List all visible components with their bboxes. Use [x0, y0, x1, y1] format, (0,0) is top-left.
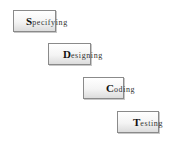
step-label-testing: Testing: [133, 117, 163, 129]
step-initial: D: [63, 48, 71, 60]
step-label-specifying: Specifying: [26, 16, 68, 28]
step-rest: pecifying: [32, 18, 68, 27]
step-initial: C: [106, 82, 114, 94]
step-rest: esigning: [71, 51, 103, 60]
step-rest: esting: [140, 119, 163, 128]
step-rest: oding: [114, 85, 135, 94]
step-label-coding: Coding: [106, 83, 135, 95]
step-label-designing: Designing: [63, 49, 103, 61]
